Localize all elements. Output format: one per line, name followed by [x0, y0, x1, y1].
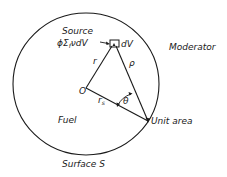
source-expr-tail: νdV — [71, 38, 89, 48]
unit-area-label: Unit area — [151, 116, 192, 126]
diagram-canvas: Source ϕΣfνdV dV Moderator r ρ O rs θ Fu… — [0, 0, 227, 177]
rho-label: ρ — [129, 58, 135, 68]
dv-label: dV — [121, 39, 134, 49]
origin-label: O — [79, 86, 86, 96]
fuel-label: Fuel — [58, 115, 77, 125]
surface-label: Surface S — [62, 159, 105, 169]
rs-label: rs — [98, 95, 105, 106]
theta-label: θ — [123, 96, 129, 106]
source-expr-main: ϕΣ — [57, 38, 69, 48]
rs-sub: s — [102, 99, 105, 106]
vector-r — [86, 46, 112, 88]
r-label: r — [93, 56, 98, 66]
moderator-label: Moderator — [169, 42, 217, 52]
source-pointer-arrowhead — [106, 42, 110, 46]
source-label: Source — [62, 26, 94, 36]
source-expression: ϕΣfνdV — [57, 38, 88, 49]
source-arrow-mark — [113, 43, 116, 46]
